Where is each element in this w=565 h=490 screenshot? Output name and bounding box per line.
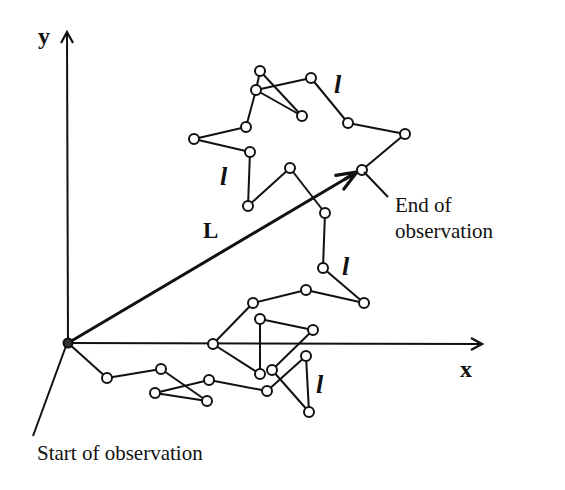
displacement-label: L <box>203 218 218 243</box>
walk-step-segment <box>260 71 302 116</box>
walk-step-segment <box>260 319 313 330</box>
walk-step-segment <box>306 356 309 412</box>
walk-step-segment <box>290 168 325 213</box>
x-axis <box>68 343 482 344</box>
segment-length-label: l <box>334 70 342 99</box>
walk-node <box>306 73 316 83</box>
segment-length-label: l <box>342 252 350 281</box>
start-pointer-line <box>33 346 66 436</box>
y-axis <box>67 32 68 343</box>
walk-node <box>208 339 218 349</box>
walk-node <box>320 208 330 218</box>
walk-step-segment <box>253 290 306 303</box>
walk-node <box>202 396 212 406</box>
walk-node <box>267 365 277 375</box>
walk-step-segment <box>272 370 309 412</box>
walk-node <box>251 85 261 95</box>
segment-length-label: l <box>220 162 228 191</box>
walk-step-segment <box>209 380 267 391</box>
walk-node <box>243 201 253 211</box>
walk-node <box>343 118 353 128</box>
walk-node <box>304 407 314 417</box>
walk-step-segment <box>194 127 246 139</box>
segment-length-label: l <box>316 370 324 399</box>
walk-node <box>297 111 307 121</box>
walk-step-segment <box>68 343 107 378</box>
walk-node <box>248 298 258 308</box>
walk-node <box>400 129 410 139</box>
walk-step-segment <box>348 123 405 134</box>
walk-step-segment <box>311 78 348 123</box>
walk-node <box>255 314 265 324</box>
random-walk-path <box>68 71 405 412</box>
displacement-arrow <box>68 172 357 343</box>
walk-step-segment <box>248 152 250 206</box>
walk-step-segment <box>213 344 260 374</box>
walk-node <box>241 122 251 132</box>
walk-step-segment <box>107 369 161 378</box>
end-pointer-line <box>364 172 388 197</box>
diagram-canvas: x y L llll Start of observation End of o… <box>0 0 565 490</box>
walk-node <box>255 369 265 379</box>
walk-node <box>156 364 166 374</box>
walk-node <box>301 285 311 295</box>
end-of-observation-label-line1: End of <box>395 193 452 217</box>
origin-node <box>64 339 73 348</box>
walk-step-segment <box>256 78 311 90</box>
walk-node <box>189 134 199 144</box>
walk-step-segment <box>248 168 290 206</box>
x-axis-label: x <box>460 356 472 382</box>
start-of-observation-label: Start of observation <box>37 441 203 465</box>
walk-node <box>255 66 265 76</box>
walk-step-segment <box>155 380 209 393</box>
walk-step-segment <box>194 139 250 152</box>
walk-node <box>102 373 112 383</box>
walk-step-segment <box>256 90 302 116</box>
walk-node <box>308 325 318 335</box>
walk-step-segment <box>155 393 207 401</box>
walk-node <box>318 263 328 273</box>
segment-length-labels: llll <box>220 70 350 399</box>
walk-node <box>150 388 160 398</box>
walk-node <box>245 147 255 157</box>
walk-step-segment <box>362 134 405 170</box>
walk-node <box>285 163 295 173</box>
walk-step-segment <box>323 213 325 268</box>
walk-node <box>262 386 272 396</box>
walk-node <box>204 375 214 385</box>
y-axis-label: y <box>38 23 50 49</box>
random-walk-diagram: x y L llll Start of observation End of o… <box>0 0 565 490</box>
end-of-observation-label-line2: observation <box>395 219 493 243</box>
walk-step-segment <box>213 303 253 344</box>
walk-node <box>301 351 311 361</box>
walk-node <box>359 298 369 308</box>
